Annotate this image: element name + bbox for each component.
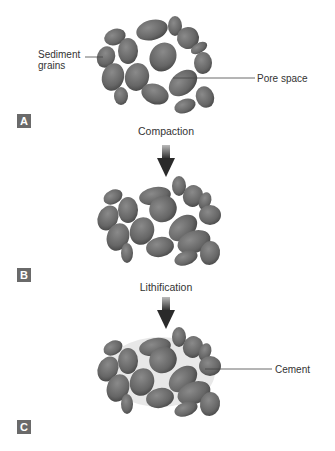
label-sediment-grains: Sediment grains xyxy=(38,49,80,71)
panel-badge-a: A xyxy=(17,114,31,128)
panel-a-grains xyxy=(94,16,217,116)
step-label-lithification: Lithification xyxy=(106,281,226,293)
label-pore-space: Pore space xyxy=(257,73,308,84)
panel-badge-c: C xyxy=(17,420,31,434)
arrow-down-icon xyxy=(157,297,175,329)
panel-badge-b: B xyxy=(17,268,31,282)
arrow-down-icon xyxy=(157,145,175,177)
step-label-compaction: Compaction xyxy=(106,125,226,137)
panel-b-grains xyxy=(93,176,221,269)
label-sediment-line1: Sediment xyxy=(38,49,80,60)
label-cement: Cement xyxy=(275,364,310,375)
label-sediment-line2: grains xyxy=(38,60,80,71)
